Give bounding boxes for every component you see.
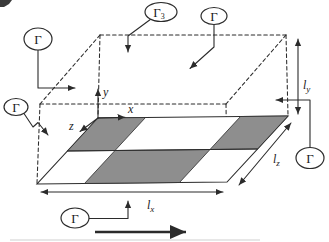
gamma-label-top-right: Γ	[210, 9, 218, 24]
checkered-plate	[37, 116, 288, 184]
figure-canvas: Γ Γ3 Γ Γ Γ Γ y x z lx ly lz	[0, 0, 329, 242]
leader-gamma-bottom	[89, 201, 128, 219]
box-edge-vertical-back-right	[286, 35, 288, 115]
leader-gamma-left	[24, 114, 48, 136]
boundary-tag-ellipses	[4, 3, 324, 229]
domain-schematic: Γ Γ3 Γ Γ Γ Γ y x z lx ly lz	[0, 0, 329, 242]
box-edge-top-right	[226, 35, 286, 104]
gamma-label-left: Γ	[12, 100, 20, 115]
gamma-label-top-left: Γ	[34, 32, 42, 47]
axis-x-label: x	[127, 102, 134, 116]
gamma-label-right: Γ	[306, 151, 314, 166]
scan-artifact-bottom-streak	[10, 239, 260, 241]
dim-lz-label: lz	[273, 152, 280, 168]
gamma-label-bottom: Γ	[71, 211, 79, 226]
scan-artifact-corner	[0, 0, 12, 7]
dim-lx-label: lx	[147, 198, 154, 214]
dim-ly-label: ly	[303, 78, 310, 94]
box-edge-vertical-front-left	[37, 104, 40, 183]
leader-gamma-top-left	[38, 50, 75, 88]
diagram-lines	[4, 3, 324, 233]
leader-gamma-top-right	[190, 25, 214, 69]
axis-y-label: y	[102, 85, 109, 99]
axis-z-label: z	[68, 119, 74, 133]
